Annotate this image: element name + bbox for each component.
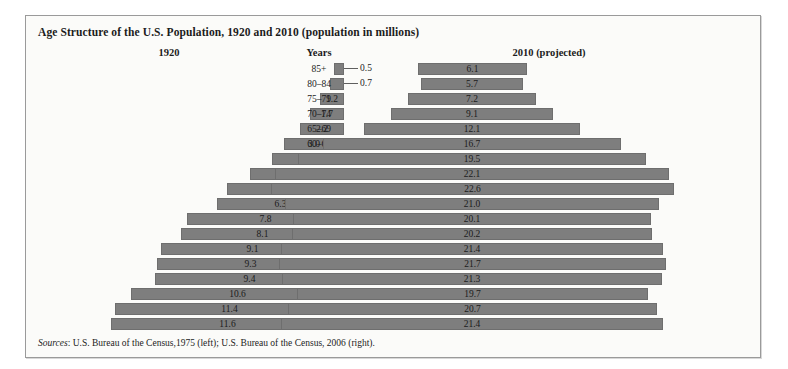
- bar-value-label: 7.2: [409, 93, 535, 106]
- bar-fill: 21.7: [279, 258, 666, 270]
- bar-value-label: 19.7: [298, 288, 647, 301]
- pyramid-row: 9.125–2921.4: [26, 242, 762, 257]
- bar-fill: 20.2: [292, 228, 652, 240]
- bar-fill: 7.2: [408, 93, 536, 105]
- bar-value-label: 21.3: [283, 273, 661, 286]
- pyramid-row: 1.770–749.1: [26, 107, 762, 122]
- bar-2010: 7.2: [408, 93, 536, 105]
- bar-2010: 21.7: [279, 258, 666, 270]
- bar-fill: 21.4: [281, 243, 663, 255]
- bar-value-label: 21.4: [282, 243, 662, 256]
- bar-fill: 19.5: [298, 153, 646, 165]
- bar-fill: 20.7: [288, 303, 657, 315]
- pyramid-row: 11.60–421.4: [26, 317, 762, 332]
- column-header-1920: 1920: [114, 47, 224, 58]
- age-group-label: 80–84: [264, 77, 374, 91]
- bar-fill: 9.1: [391, 108, 553, 120]
- source-label: Sources: [38, 338, 68, 348]
- bar-2010: 12.1: [364, 123, 580, 135]
- bar-2010: 9.1: [391, 108, 553, 120]
- bar-2010: 21.0: [285, 198, 659, 210]
- bar-fill: 21.0: [285, 198, 659, 210]
- bar-2010: 6.1: [418, 63, 527, 75]
- pyramid-row: 9.320–2421.7: [26, 257, 762, 272]
- bar-value-label: 21.0: [286, 198, 658, 211]
- age-group-label: 85+: [264, 62, 374, 76]
- pyramid-row: 6.340–4421.0: [26, 197, 762, 212]
- population-pyramid: 0.50.585+6.10.70.780–845.71.275–797.21.7…: [26, 62, 762, 340]
- bar-fill: 12.1: [364, 123, 580, 135]
- pyramid-row: 9.415–1921.3: [26, 272, 762, 287]
- pyramid-row: 7.835–3920.1: [26, 212, 762, 227]
- bar-2010: 20.1: [293, 213, 651, 225]
- source-text: : U.S. Bureau of the Census,1975 (left);…: [68, 338, 375, 348]
- pyramid-row: 2.265–6912.1: [26, 122, 762, 137]
- source-note: Sources: U.S. Bureau of the Census,1975 …: [38, 338, 375, 348]
- pyramid-row: 0.70.780–845.7: [26, 77, 762, 92]
- bar-fill: 22.6: [271, 183, 674, 195]
- column-header-years: Years: [264, 47, 374, 58]
- bar-2010: 19.5: [298, 153, 646, 165]
- bar-value-label: 22.1: [276, 168, 668, 181]
- bar-fill: 6.1: [418, 63, 527, 75]
- bar-fill: 5.7: [421, 78, 523, 90]
- pyramid-row: 4.750–5422.1: [26, 167, 762, 182]
- bar-value-label: 16.7: [324, 138, 620, 151]
- bar-2010: 19.7: [297, 288, 648, 300]
- age-group-label: 70–74: [264, 107, 374, 121]
- bar-value-label: 20.2: [293, 228, 651, 241]
- pyramid-row: 3.655–5919.5: [26, 152, 762, 167]
- bar-2010: 20.2: [292, 228, 652, 240]
- page-title: Age Structure of the U.S. Population, 19…: [38, 26, 419, 38]
- pyramid-row: 11.45–920.7: [26, 302, 762, 317]
- bar-fill: 21.4: [281, 318, 663, 330]
- age-group-label: 65–69: [264, 122, 374, 136]
- bar-value-label: 21.4: [282, 318, 662, 331]
- pyramid-row: 10.610–1419.7: [26, 287, 762, 302]
- bar-2010: 20.7: [288, 303, 657, 315]
- bar-2010: 22.6: [271, 183, 674, 195]
- bar-value-label: 12.1: [365, 123, 579, 136]
- bar-2010: 21.4: [281, 318, 663, 330]
- chart-panel: Age Structure of the U.S. Population, 19…: [25, 15, 761, 358]
- pyramid-row: 0.50.585+6.1: [26, 62, 762, 77]
- pyramid-row: 8.130–3420.2: [26, 227, 762, 242]
- bar-value-label: 22.6: [272, 183, 673, 196]
- bar-2010: 22.1: [275, 168, 669, 180]
- bar-value-label: 19.5: [299, 153, 645, 166]
- bar-fill: 16.7: [323, 138, 621, 150]
- bar-value-label: 9.1: [392, 108, 552, 121]
- bar-fill: 22.1: [275, 168, 669, 180]
- bar-fill: 21.3: [282, 273, 662, 285]
- bar-value-label: 6.1: [419, 63, 526, 76]
- bar-value-label: 20.1: [294, 213, 650, 226]
- bar-fill: 20.1: [293, 213, 651, 225]
- bar-2010: 21.3: [282, 273, 662, 285]
- pyramid-row: 1.275–797.2: [26, 92, 762, 107]
- pyramid-row: 3.060–6416.7: [26, 137, 762, 152]
- pyramid-row: 5.845–4922.6: [26, 182, 762, 197]
- bar-value-label: 20.7: [289, 303, 656, 316]
- age-group-label: 75–79: [264, 92, 374, 106]
- bar-value-label: 21.7: [280, 258, 665, 271]
- bar-2010: 16.7: [323, 138, 621, 150]
- bar-fill: 19.7: [297, 288, 648, 300]
- bar-value-label: 5.7: [422, 78, 522, 91]
- bar-2010: 21.4: [281, 243, 663, 255]
- bar-2010: 5.7: [421, 78, 523, 90]
- column-header-2010: 2010 (projected): [424, 47, 674, 58]
